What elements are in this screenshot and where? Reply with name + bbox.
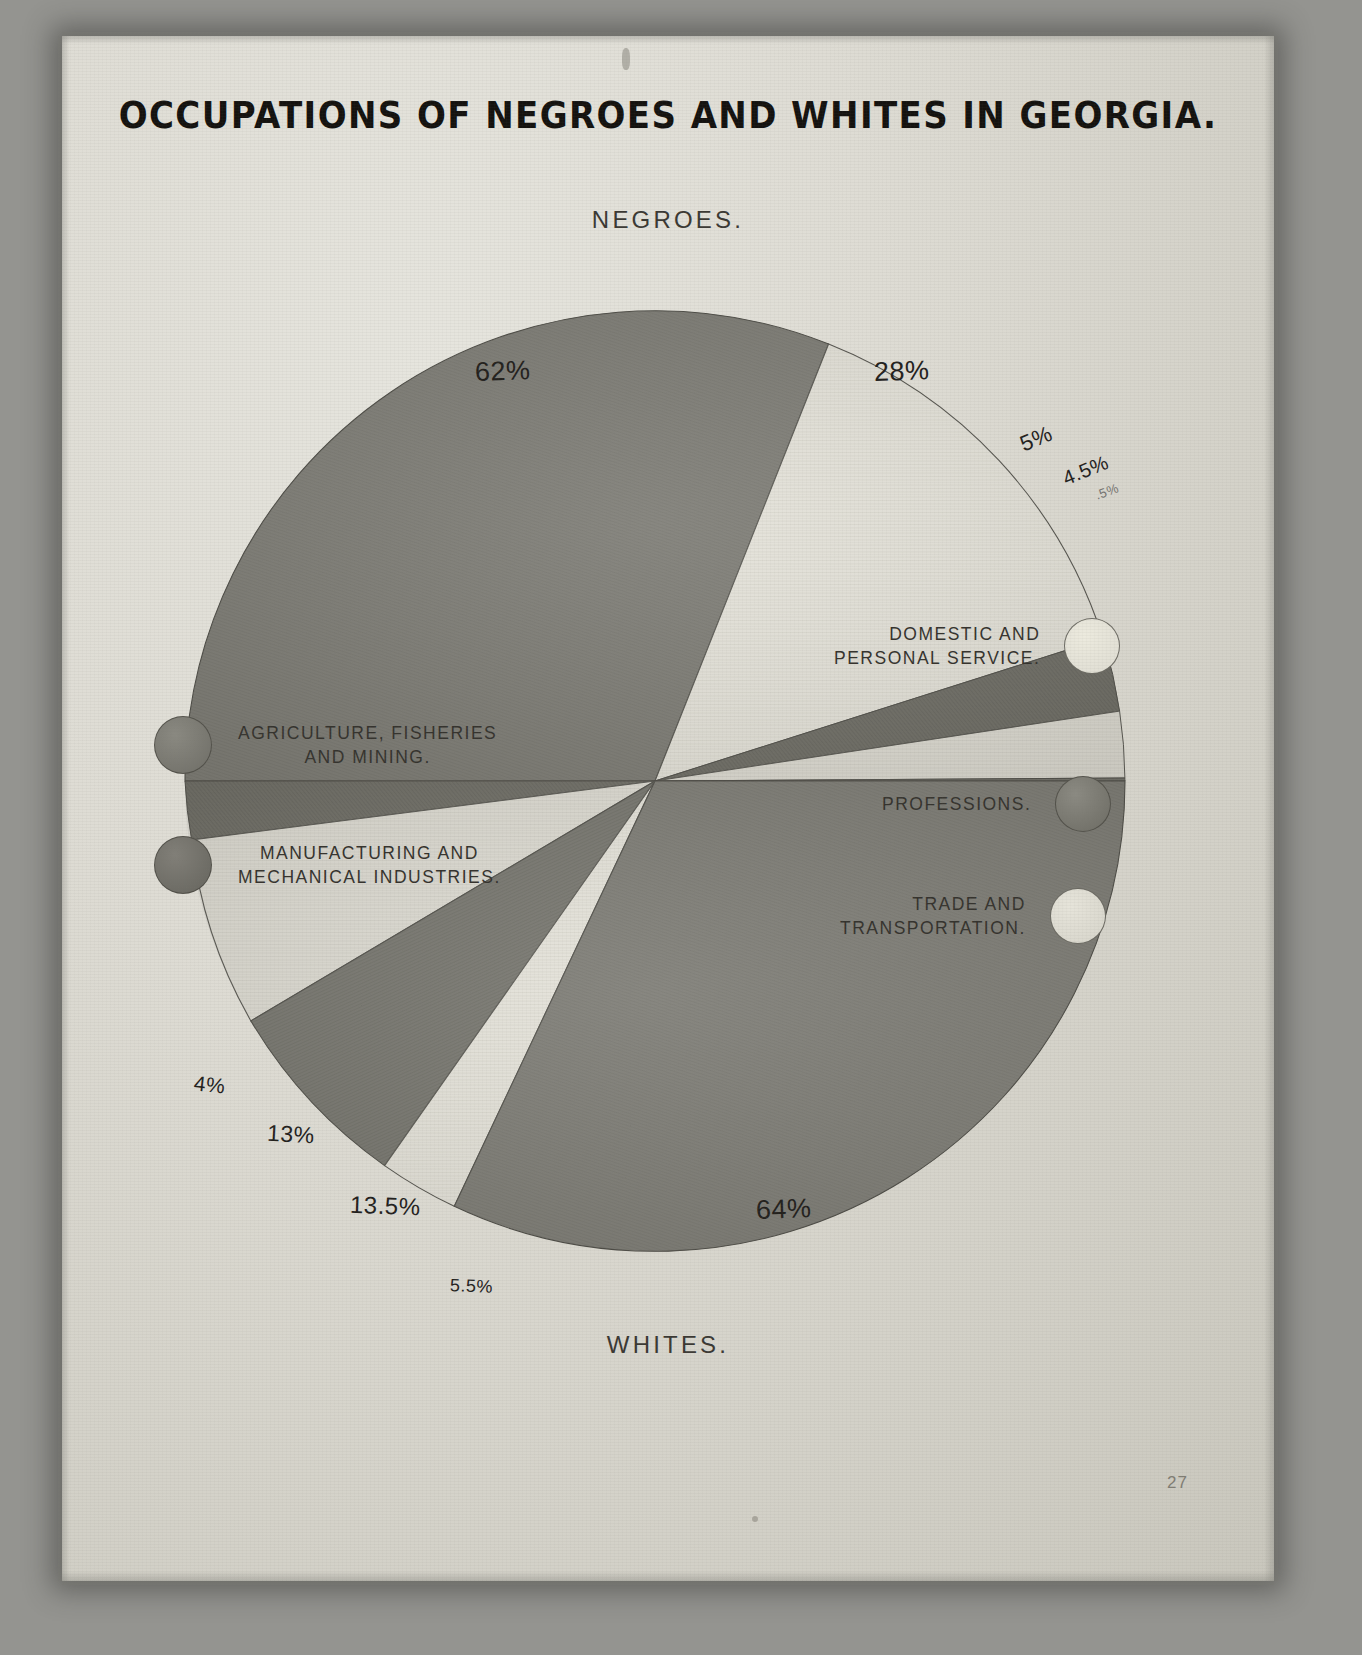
legend-swatch-trade (1050, 888, 1106, 944)
screenshot-root: OCCUPATIONS OF NEGROES AND WHITES IN GEO… (0, 0, 1362, 1655)
legend-label-trade: TRADE AND TRANSPORTATION. (840, 892, 1026, 940)
legend-swatch-domestic (1064, 618, 1120, 674)
chart-stage: NEGROES. WHITES. 62% 28% 5% 4.5% .5% 4% … (62, 36, 1274, 1581)
legend-item-manufacturing[interactable]: MANUFACTURING AND MECHANICAL INDUSTRIES. (154, 836, 501, 894)
pct-whites-manufacturing: 13.5% (350, 1191, 421, 1221)
legend-label-agriculture: AGRICULTURE, FISHERIES AND MINING. (238, 721, 497, 769)
pct-whites-trade: 13% (266, 1120, 315, 1149)
caption-negroes: NEGROES. (62, 206, 1274, 234)
caption-whites: WHITES. (62, 1331, 1274, 1359)
legend-swatch-professions (1055, 776, 1111, 832)
legend-swatch-manufacturing (154, 836, 212, 894)
legend-swatch-agriculture (154, 716, 212, 774)
legend-label-domestic: DOMESTIC AND PERSONAL SERVICE. (834, 622, 1040, 670)
pct-negroes-domestic: 28% (873, 355, 930, 388)
legend-item-trade[interactable]: TRADE AND TRANSPORTATION. (840, 888, 1106, 944)
legend-item-agriculture[interactable]: AGRICULTURE, FISHERIES AND MINING. (154, 716, 497, 774)
pct-whites-professions: 4% (193, 1071, 227, 1098)
paper-sheet: OCCUPATIONS OF NEGROES AND WHITES IN GEO… (62, 36, 1274, 1581)
legend-item-professions[interactable]: PROFESSIONS. (882, 776, 1111, 832)
legend-label-professions: PROFESSIONS. (882, 792, 1031, 816)
pct-negroes-agriculture: 62% (474, 355, 531, 388)
legend-item-domestic[interactable]: DOMESTIC AND PERSONAL SERVICE. (834, 618, 1120, 674)
fan-negroes (185, 311, 1125, 781)
pct-whites-agriculture: 64% (755, 1193, 812, 1226)
legend-label-manufacturing: MANUFACTURING AND MECHANICAL INDUSTRIES. (238, 841, 501, 889)
fan-negroes-shading (185, 311, 1125, 781)
corner-page-mark: 27 (1167, 1473, 1188, 1493)
pct-whites-domestic: 5.5% (450, 1275, 494, 1297)
